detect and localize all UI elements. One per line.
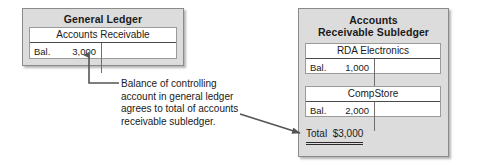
subledger-title-line-2: Receivable Subledger (299, 26, 448, 38)
caption-line-1: Balance of controlling (121, 78, 273, 91)
caption-line-3: agrees to total of accounts (121, 103, 273, 116)
t-account-rda-electronics: RDA Electronics Bal. 1,000 (305, 43, 441, 74)
t-account-header-accounts-receivable: Accounts Receivable (30, 28, 176, 43)
t-account-center-divider (374, 102, 375, 131)
t-account-body-accounts-receivable: Bal. 3,000 (30, 43, 176, 73)
t-account-header-rda-electronics: RDA Electronics (306, 44, 440, 59)
diagram-canvas: General Ledger Accounts Receivable Bal. … (0, 0, 479, 166)
t-account-compstore: CompStore Bal. 2,000 (305, 86, 441, 117)
subledger-title: Accounts Receivable Subledger (299, 9, 448, 38)
t-account-body-rda-electronics: Bal. 1,000 (306, 59, 440, 88)
t-account-accounts-receivable: Accounts Receivable Bal. 3,000 (29, 27, 177, 59)
caption-line-2: account in general ledger (121, 91, 273, 104)
t-account-entry-amount-ar: 3,000 (48, 45, 96, 58)
subledger-total: Total $3,000 (306, 127, 363, 145)
t-account-entry-amount-compstore: 2,000 (322, 104, 369, 117)
caption-text: Balance of controlling account in genera… (121, 78, 273, 128)
subledger-title-line-1: Accounts (299, 14, 448, 26)
t-account-center-divider (101, 43, 102, 73)
general-ledger-title: General Ledger (23, 9, 183, 25)
t-account-header-compstore: CompStore (306, 87, 440, 102)
t-account-center-divider (374, 59, 375, 88)
t-account-entry-amount-rda: 1,000 (322, 61, 369, 74)
caption-line-4: receivable subledger. (121, 116, 273, 129)
